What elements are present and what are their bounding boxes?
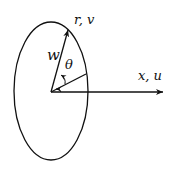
label-r-v: r, v [74, 13, 94, 26]
label-theta: θ [65, 58, 73, 71]
label-x-u: x, u [138, 69, 162, 82]
diagram-canvas: r, v x, u w θ [0, 0, 175, 177]
label-w: w [47, 48, 60, 63]
theta-arc-arrow [61, 75, 65, 84]
